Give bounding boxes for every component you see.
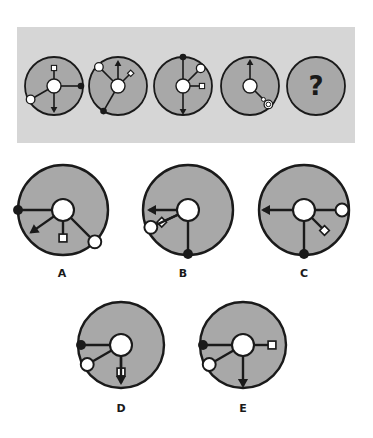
- hub-circle: [176, 79, 190, 93]
- white-square-icon: [59, 234, 67, 242]
- black-dot-icon: [198, 340, 208, 350]
- white-circle-icon: [26, 95, 35, 104]
- question-mark: ?: [308, 71, 323, 101]
- option-d[interactable]: [76, 302, 164, 388]
- black-dot-icon: [180, 54, 187, 61]
- black-dot-icon: [100, 108, 107, 115]
- option-label-c: C: [300, 267, 308, 280]
- hub-circle: [111, 79, 125, 93]
- black-dot-icon: [299, 249, 309, 259]
- option-label-d: D: [116, 402, 125, 415]
- black-dot-icon: [13, 205, 23, 215]
- white-circle-icon: [336, 204, 349, 217]
- black-dot-icon: [183, 249, 193, 259]
- hub-circle: [293, 199, 315, 221]
- white-circle-icon: [144, 221, 157, 234]
- puzzle-canvas: ? ABCDE: [0, 0, 373, 438]
- hub-circle: [177, 199, 199, 221]
- option-c[interactable]: [259, 165, 349, 259]
- white-circle-icon: [88, 235, 101, 248]
- sequence-figure-2[interactable]: [89, 57, 147, 115]
- white-square-icon: [51, 65, 56, 70]
- hub-circle: [110, 334, 132, 356]
- option-label-a: A: [58, 267, 67, 280]
- hub-circle: [47, 79, 61, 93]
- white-circle-icon: [196, 64, 205, 73]
- hub-circle: [232, 334, 254, 356]
- option-a[interactable]: [13, 165, 108, 255]
- white-square-icon: [268, 341, 276, 349]
- ringed-circle-icon: [264, 100, 273, 109]
- option-b[interactable]: [143, 165, 233, 259]
- white-circle-icon: [81, 358, 94, 371]
- option-label-b: B: [179, 267, 187, 280]
- white-square-icon: [199, 83, 204, 88]
- hub-circle: [52, 199, 74, 221]
- white-circle-icon: [95, 63, 104, 72]
- hub-circle: [243, 79, 257, 93]
- option-e[interactable]: [198, 302, 286, 388]
- white-circle-icon: [203, 358, 216, 371]
- answer-options: ABCDE: [13, 165, 349, 415]
- sequence-figure-4[interactable]: [221, 57, 279, 115]
- option-label-e: E: [239, 402, 247, 415]
- sequence-figure-5[interactable]: ?: [287, 57, 345, 115]
- black-dot-icon: [78, 83, 85, 90]
- sequence-figure-1[interactable]: [25, 57, 84, 115]
- small-white-dot-icon: [261, 97, 265, 101]
- black-dot-icon: [76, 340, 86, 350]
